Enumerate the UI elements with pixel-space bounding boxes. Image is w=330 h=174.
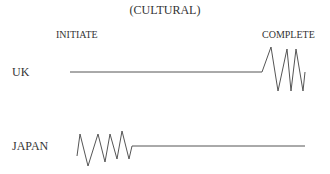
process-diagram bbox=[0, 0, 330, 174]
uk-process-line bbox=[70, 47, 305, 91]
japan-process-line bbox=[77, 131, 305, 166]
